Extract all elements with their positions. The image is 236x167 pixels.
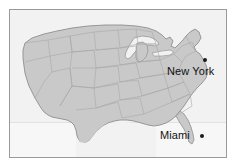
map-figure-frame: New York Miami (9, 9, 227, 158)
city-marker-miami (200, 134, 204, 138)
city-marker-new-york (203, 58, 207, 62)
map-screenshot: New York Miami (0, 0, 236, 167)
city-label-new-york: New York (167, 65, 214, 77)
usa-map-graphic (10, 10, 227, 158)
city-label-miami: Miami (160, 129, 190, 141)
